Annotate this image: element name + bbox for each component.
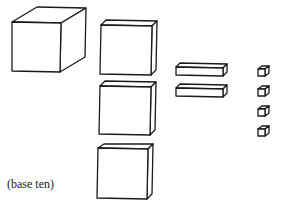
one-unit-4 xyxy=(258,126,269,136)
caption-label: (base ten) xyxy=(7,177,54,192)
hundred-flat-2 xyxy=(99,81,156,135)
hundred-flat-1 xyxy=(100,20,157,75)
ten-rod-2 xyxy=(176,84,227,97)
one-unit-3 xyxy=(258,106,269,116)
thousand-cube xyxy=(12,7,86,72)
ten-rod-1 xyxy=(176,63,227,76)
one-unit-1 xyxy=(258,66,269,76)
hundred-flat-3 xyxy=(97,144,153,199)
blocks-canvas xyxy=(0,0,282,207)
one-unit-2 xyxy=(258,86,269,96)
